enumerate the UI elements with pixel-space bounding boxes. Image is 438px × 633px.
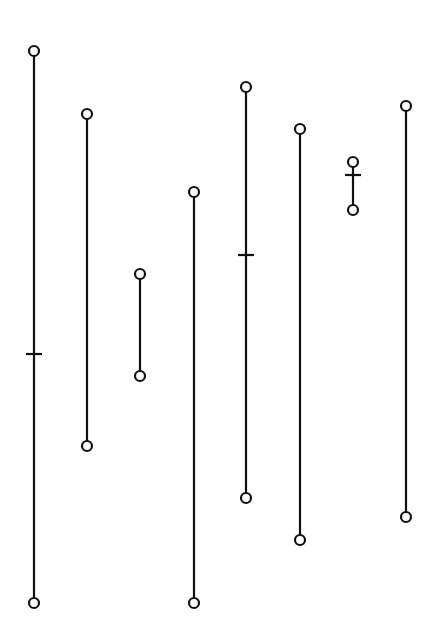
endpoint-bottom-node [29,598,39,608]
endpoint-top-node [189,187,199,197]
endpoint-top-node [295,124,305,134]
endpoint-top-node [241,82,251,92]
interval-segment [135,269,145,381]
endpoint-bottom-node [189,598,199,608]
endpoint-top-node [29,46,39,56]
interval-diagram [0,0,438,633]
endpoint-top-node [82,109,92,119]
endpoint-top-node [348,157,358,167]
endpoint-bottom-node [135,371,145,381]
endpoint-bottom-node [401,512,411,522]
endpoint-top-node [401,101,411,111]
endpoint-bottom-node [348,205,358,215]
interval-segment [26,46,42,608]
interval-segment [189,187,199,608]
interval-segment [401,101,411,522]
interval-segment [295,124,305,545]
interval-segment [238,82,254,503]
endpoint-bottom-node [82,441,92,451]
endpoint-top-node [135,269,145,279]
endpoint-bottom-node [295,535,305,545]
interval-segment [345,157,361,215]
interval-segment [82,109,92,451]
endpoint-bottom-node [241,493,251,503]
